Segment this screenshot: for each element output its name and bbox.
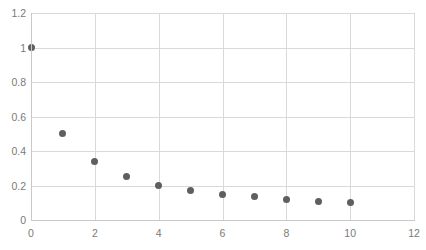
x-axis-tick-label: 6 (220, 228, 226, 239)
y-axis-tick-label: 0.6 (0, 111, 26, 122)
data-point-marker (59, 130, 66, 137)
y-axis-tick-label: 0.2 (0, 180, 26, 191)
gridline-vertical (414, 13, 415, 220)
data-point-marker (251, 193, 258, 200)
y-axis-tick-labels: 00.20.40.60.811.2 (0, 13, 26, 220)
gridline-vertical (223, 13, 224, 220)
y-axis-tick-label: 1.2 (0, 8, 26, 19)
y-axis-tick-label: 1 (0, 42, 26, 53)
data-point-marker (219, 191, 226, 198)
data-point-marker (123, 173, 130, 180)
x-axis-tick-label: 4 (156, 228, 162, 239)
x-axis-tick-label: 8 (283, 228, 289, 239)
gridline-vertical (95, 13, 96, 220)
x-axis-tick-label: 2 (92, 228, 98, 239)
y-axis-line (31, 13, 32, 221)
data-point-marker (315, 198, 322, 205)
x-axis-tick-label: 0 (28, 228, 34, 239)
y-axis-tick-label: 0 (0, 215, 26, 226)
data-point-marker (187, 187, 194, 194)
plot-area (31, 13, 414, 220)
y-axis-tick-label: 0.4 (0, 146, 26, 157)
x-axis-line (31, 220, 415, 221)
y-axis-tick-label: 0.8 (0, 77, 26, 88)
x-axis-tick-label: 10 (344, 228, 356, 239)
data-point-marker (155, 182, 162, 189)
data-point-marker (283, 196, 290, 203)
gridline-vertical (350, 13, 351, 220)
data-point-marker (347, 199, 354, 206)
scatter-chart: 00.20.40.60.811.2 024681012 (0, 0, 426, 250)
x-axis-tick-labels: 024681012 (31, 228, 414, 242)
x-axis-tick-label: 12 (408, 228, 420, 239)
gridline-vertical (286, 13, 287, 220)
data-point-marker (91, 158, 98, 165)
